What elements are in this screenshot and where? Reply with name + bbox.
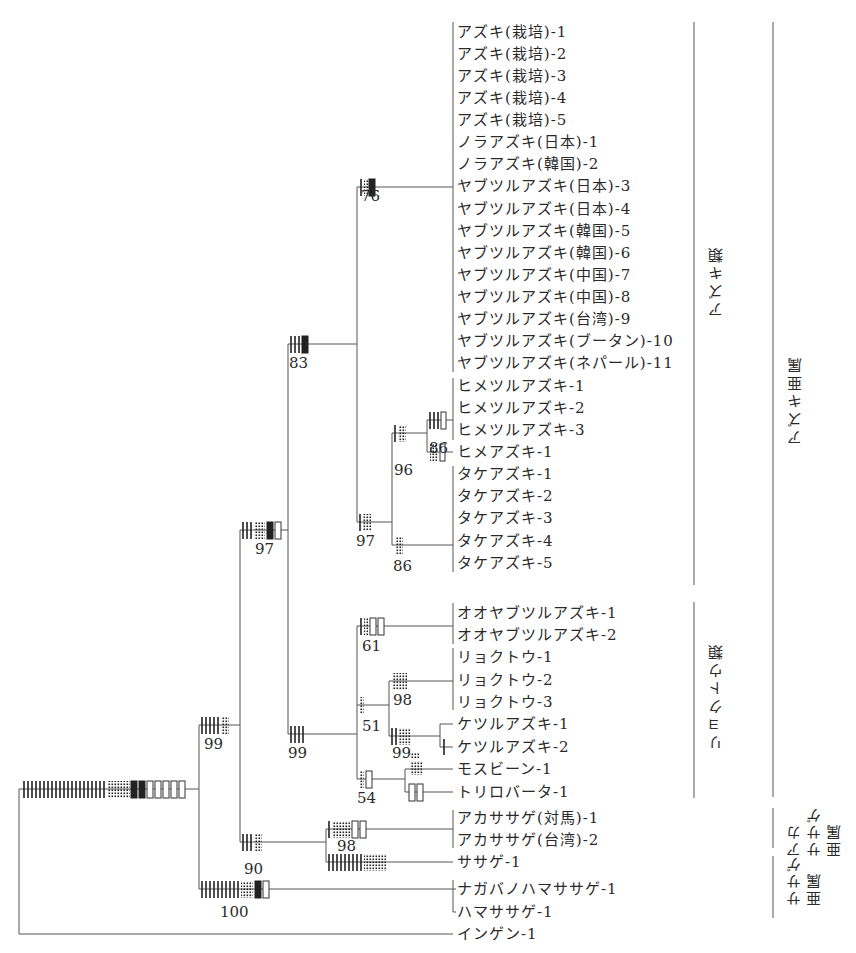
tip-label: ヤブツルアズキ(韓国)-5 [457, 221, 631, 241]
tip-label: ノラアズキ(日本)-1 [457, 132, 599, 152]
tip-label: アズキ(栽培)-1 [457, 22, 567, 42]
bootstrap-value: 99 [392, 745, 411, 761]
bootstrap-value: 90 [244, 861, 263, 877]
group-label-sasage-subgenus: ササゲ 亜属 [784, 855, 824, 906]
tip-label: アカササゲ(対馬)-1 [457, 808, 599, 828]
bootstrap-value: 83 [289, 355, 308, 371]
tip-label: ヤブツルアズキ(韓国)-6 [457, 243, 631, 263]
bootstrap-value: 86 [393, 558, 412, 574]
tip-label: ヒメツルアズキ-2 [457, 398, 586, 418]
tip-label: ヒメアズキ-1 [457, 442, 554, 462]
tip-label: インゲン-1 [457, 924, 538, 944]
tip-label: ヒメツルアズキ-3 [457, 420, 586, 440]
tip-label: ヤブツルアズキ(台湾)-9 [457, 309, 631, 329]
group-label-ryokutou-rui: リョクトウ類 [705, 642, 726, 750]
tip-label: ヤブツルアズキ(中国)-7 [457, 265, 631, 285]
tip-label: アズキ(栽培)-3 [457, 66, 567, 86]
group-label-azuki-rui: アズキ類 [705, 245, 726, 317]
tip-label: アズキ(栽培)-4 [457, 88, 567, 108]
character-marks [24, 179, 446, 898]
tip-label: オオヤブツルアズキ-2 [457, 625, 618, 645]
tip-label: ナガバノハマササゲ-1 [457, 879, 618, 899]
tip-label: トリロバータ-1 [457, 782, 570, 802]
tip-label: ヤブツルアズキ(日本)-3 [457, 176, 631, 196]
bootstrap-value: 51 [362, 718, 381, 734]
tip-label: ヤブツルアズキ(日本)-4 [457, 199, 631, 219]
bootstrap-value: 86 [429, 440, 448, 456]
group-label-azuki-subgenus: アズキ亜属 [784, 355, 805, 445]
tip-label: ヤブツルアズキ(ブータン)-10 [457, 331, 674, 351]
bootstrap-value: 99 [288, 745, 307, 761]
tip-label: タケアズキ-2 [457, 486, 554, 506]
tip-label: アカササゲ(台湾)-2 [457, 830, 599, 850]
bootstrap-value: 100 [220, 904, 249, 920]
bootstrap-value: 98 [337, 838, 356, 854]
bootstrap-value: 97 [356, 533, 375, 549]
bootstrap-value: 61 [362, 638, 381, 654]
tip-label: リョクトウ-2 [457, 670, 554, 690]
tip-label: リョクトウ-3 [457, 692, 554, 712]
tip-label: ノラアズキ(韓国)-2 [457, 154, 599, 174]
tip-label: リョクトウ-1 [457, 647, 554, 667]
bootstrap-value: 98 [393, 692, 412, 708]
bootstrap-value: 97 [255, 541, 274, 557]
tip-label: ヤブツルアズキ(中国)-8 [457, 287, 631, 307]
group-label-akasasage-subgenus: アカ ササゲ 亜属 [784, 806, 844, 857]
tip-label: モスビーン-1 [457, 759, 553, 779]
bootstrap-value: 54 [357, 790, 376, 806]
tip-label: アズキ(栽培)-2 [457, 44, 567, 64]
tip-label: タケアズキ-5 [457, 553, 554, 573]
tip-label: ヤブツルアズキ(ネパール)-11 [457, 353, 674, 373]
tip-label: ハマササゲ-1 [457, 902, 554, 922]
tip-label: タケアズキ-3 [457, 508, 554, 528]
bootstrap-value: 76 [361, 188, 380, 204]
bootstrap-value: 99 [204, 736, 223, 752]
phylogenetic-tree [0, 0, 856, 953]
tip-label: アズキ(栽培)-5 [457, 110, 567, 130]
tip-label: ササゲ-1 [457, 852, 522, 872]
tip-label: オオヤブツルアズキ-1 [457, 603, 618, 623]
bootstrap-value: 96 [394, 462, 413, 478]
tip-label: タケアズキ-1 [457, 464, 554, 484]
tip-label: ケツルアズキ-1 [457, 714, 570, 734]
tip-label: タケアズキ-4 [457, 531, 554, 551]
tip-label: ヒメツルアズキ-1 [457, 376, 586, 396]
tip-label: ケツルアズキ-2 [457, 737, 570, 757]
